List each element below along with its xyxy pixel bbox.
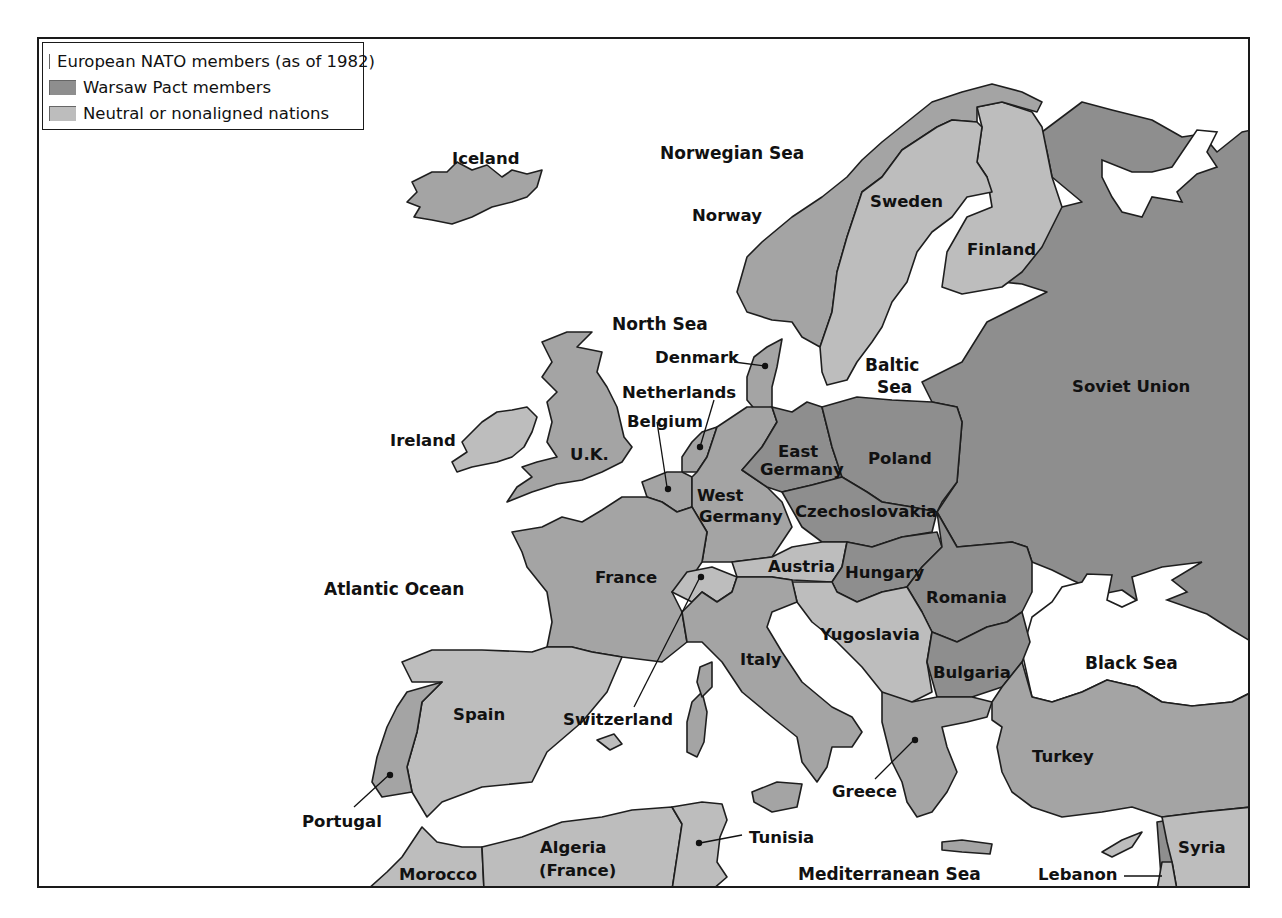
island-balearic [597, 734, 622, 750]
island-corsica [697, 662, 712, 697]
label-norway: Norway [692, 206, 762, 225]
label-lebanon: Lebanon [1038, 865, 1117, 884]
map-legend: European NATO members (as of 1982) Warsa… [42, 42, 364, 130]
sea-label-atlantic: Atlantic Ocean [324, 579, 464, 599]
sea-label-mediterranean: Mediterranean Sea [798, 864, 981, 884]
sea-label-baltic-2: Sea [877, 377, 912, 397]
country-yugoslavia [792, 582, 932, 707]
legend-label-nato: European NATO members (as of 1982) [57, 52, 375, 71]
label-east-germany-2: Germany [760, 460, 844, 479]
switzerland-dot [698, 574, 704, 580]
label-finland: Finland [967, 240, 1036, 259]
sea-label-norwegian: Norwegian Sea [660, 143, 804, 163]
label-ireland: Ireland [390, 431, 456, 450]
label-soviet-union: Soviet Union [1072, 377, 1190, 396]
legend-swatch-nato [49, 54, 50, 69]
country-greece [882, 692, 992, 817]
label-east-germany-1: East [778, 442, 818, 461]
tunisia-dot [696, 840, 702, 846]
label-algeria-1: Algeria [540, 838, 606, 857]
label-spain: Spain [453, 705, 505, 724]
label-italy: Italy [740, 650, 782, 669]
legend-label-neutral: Neutral or nonaligned nations [83, 104, 329, 123]
label-austria: Austria [768, 557, 835, 576]
label-morocco: Morocco [399, 865, 477, 884]
label-tunisia: Tunisia [749, 828, 814, 847]
denmark-dot [762, 363, 768, 369]
label-belgium: Belgium [627, 412, 703, 431]
island-sicily [752, 782, 802, 812]
label-sweden: Sweden [870, 192, 943, 211]
label-bulgaria: Bulgaria [933, 663, 1011, 682]
country-denmark [747, 339, 782, 412]
label-turkey: Turkey [1032, 747, 1094, 766]
island-sardinia [687, 692, 707, 757]
sea-label-black: Black Sea [1085, 653, 1178, 673]
label-greece: Greece [832, 782, 897, 801]
label-czechoslovakia: Czechoslovakia [795, 502, 937, 521]
label-uk: U.K. [570, 445, 609, 464]
netherlands-dot [697, 444, 703, 450]
country-spain [402, 647, 622, 817]
belgium-dot [665, 486, 671, 492]
label-syria: Syria [1178, 838, 1226, 857]
label-france: France [595, 568, 657, 587]
legend-label-warsaw: Warsaw Pact members [83, 78, 271, 97]
legend-swatch-neutral [49, 106, 76, 121]
country-iceland [407, 162, 542, 224]
label-romania: Romania [926, 588, 1007, 607]
label-hungary: Hungary [845, 563, 924, 582]
legend-swatch-warsaw [49, 80, 76, 95]
country-ireland [452, 407, 537, 472]
sea-label-north: North Sea [612, 314, 708, 334]
europe-map: Norwegian Sea North Sea Baltic Sea Atlan… [39, 39, 1250, 888]
label-west-germany-2: Germany [699, 507, 783, 526]
legend-item-neutral: Neutral or nonaligned nations [49, 100, 363, 126]
sea-label-baltic-1: Baltic [865, 355, 919, 375]
label-portugal: Portugal [302, 812, 382, 831]
island-cyprus [1102, 832, 1142, 857]
label-netherlands: Netherlands [622, 383, 736, 402]
label-denmark: Denmark [655, 348, 740, 367]
portugal-dot [387, 772, 393, 778]
greece-dot [912, 737, 918, 743]
map-frame: Norwegian Sea North Sea Baltic Sea Atlan… [37, 37, 1250, 888]
legend-item-nato: European NATO members (as of 1982) [49, 48, 363, 74]
label-west-germany-1: West [697, 486, 744, 505]
label-yugoslavia: Yugoslavia [819, 625, 920, 644]
label-algeria-2: (France) [539, 861, 616, 880]
label-poland: Poland [868, 449, 932, 468]
label-switzerland: Switzerland [563, 710, 673, 729]
legend-item-warsaw: Warsaw Pact members [49, 74, 363, 100]
island-crete [942, 840, 992, 854]
label-iceland: Iceland [452, 149, 519, 168]
